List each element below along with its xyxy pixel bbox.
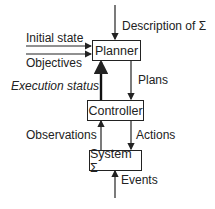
actions-label: Actions bbox=[136, 128, 175, 142]
planner-label: Planner bbox=[95, 44, 138, 58]
controller-label: Controller bbox=[88, 104, 142, 118]
initial-state-label: Initial state bbox=[26, 31, 83, 45]
execution-status-label: Execution status bbox=[11, 79, 99, 93]
controller-node: Controller bbox=[87, 100, 144, 121]
system-node: System Σ bbox=[89, 150, 142, 171]
planner-node: Planner bbox=[92, 40, 141, 61]
description-label: Description of Σ bbox=[122, 19, 206, 33]
system-label: System Σ bbox=[90, 147, 141, 175]
observations-label: Observations bbox=[26, 128, 97, 142]
plans-label: Plans bbox=[138, 73, 168, 87]
objectives-label: Objectives bbox=[26, 56, 82, 70]
events-label: Events bbox=[121, 173, 158, 187]
